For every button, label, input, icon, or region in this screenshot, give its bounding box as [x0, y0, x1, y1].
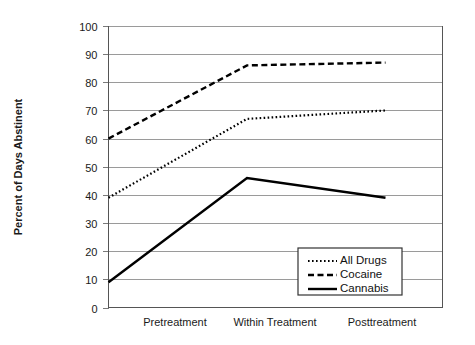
chart-background: [0, 0, 475, 345]
y-tick-label: 90: [85, 49, 97, 61]
y-tick-label: 30: [85, 218, 97, 230]
chart-legend: All DrugsCocaineCannabis: [298, 248, 402, 295]
y-axis-title: Percent of Days Abstinent: [12, 98, 24, 235]
y-tick-label: 50: [85, 162, 97, 174]
legend-label-cocaine: Cocaine: [340, 268, 382, 280]
x-tick-label: Pretreatment: [143, 316, 207, 328]
y-tick-label: 10: [85, 274, 97, 286]
line-chart: 1009080706050403020100 PretreatmentWithi…: [0, 0, 475, 345]
x-tick-label: Within Treatment: [233, 316, 316, 328]
x-tick-labels-group: PretreatmentWithin TreatmentPosttreatmen…: [143, 316, 416, 328]
y-tick-label: 0: [91, 303, 97, 315]
y-tick-label: 20: [85, 246, 97, 258]
y-tick-label: 70: [85, 105, 97, 117]
y-tick-label: 80: [85, 77, 97, 89]
x-tick-label: Posttreatment: [348, 316, 416, 328]
y-tick-label: 60: [85, 134, 97, 146]
legend-label-all-drugs: All Drugs: [340, 254, 387, 266]
y-tick-label: 100: [79, 21, 97, 33]
legend-entries-group: All DrugsCocaineCannabis: [308, 254, 389, 294]
legend-label-cannabis: Cannabis: [340, 282, 389, 294]
y-tick-label: 40: [85, 190, 97, 202]
chart-canvas: 1009080706050403020100 PretreatmentWithi…: [0, 0, 475, 345]
